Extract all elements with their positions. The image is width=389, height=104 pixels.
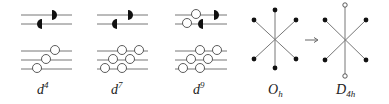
electron-circle-icon [183,19,192,28]
ligand-dot-icon [323,18,328,23]
ligand-dot-icon [294,57,299,62]
geometry-d4h: D4h [323,3,369,99]
half-arrow-icon [52,10,57,20]
electron-circle-icon [109,55,118,64]
ligand-dot-icon [252,57,257,62]
label-d9: d9 [193,80,205,97]
label-d4: d4 [37,80,49,97]
electron-circle-icon [118,64,127,73]
label-d4h: D4h [335,82,356,99]
ligand-dot-icon [252,18,257,23]
half-arrow-icon [112,19,117,29]
panel-d9: d9 [175,10,227,98]
electron-circle-icon [51,46,60,55]
electron-circle-icon [126,55,135,64]
half-arrow-icon [198,19,203,29]
half-arrow-icon [214,10,219,20]
panel-d4: d4 [21,10,72,97]
electron-circle-icon [179,64,188,73]
electron-circle-icon [187,55,196,64]
electron-circle-icon [196,64,205,73]
half-arrow-icon [37,19,42,29]
ligand-dot-icon [273,66,278,71]
electron-circle-icon [101,64,110,73]
axial-ligand-open-icon [343,3,347,7]
electron-circle-icon [118,46,127,55]
transform-arrow-icon [305,38,318,43]
ligand-dot-icon [323,58,328,63]
electron-circle-icon [42,55,51,64]
label-oh: Oh [268,82,283,99]
label-d7: d7 [111,80,123,97]
axial-ligand-open-icon [343,74,347,78]
electron-circle-icon [213,46,222,55]
ligand-dot-icon [294,18,299,23]
panel-d7: d7 [97,10,148,97]
ligand-dot-icon [273,8,278,13]
ligand-dot-icon [364,58,369,63]
electron-circle-icon [33,64,42,73]
electron-circle-icon [135,46,144,55]
ligand-dot-icon [364,18,369,23]
half-arrow-icon [128,10,133,20]
electron-circle-icon [196,46,205,55]
geometry-oh: Oh [252,8,299,99]
electron-circle-icon [204,55,213,64]
figure-canvas: d4 d7 d9 [0,0,389,104]
electron-circle-icon [192,10,201,19]
